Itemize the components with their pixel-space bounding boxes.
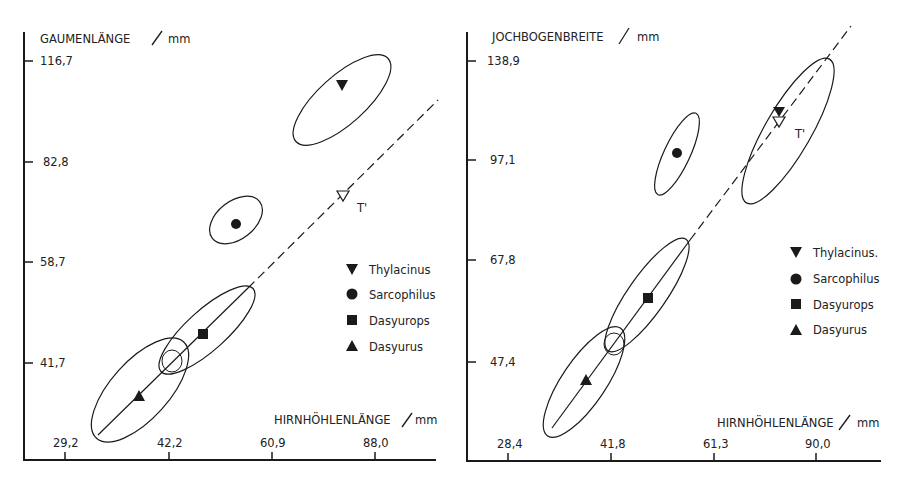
slash-divider (839, 415, 850, 430)
slash-divider (402, 413, 412, 427)
left-chart: 116,7 82,8 58,7 41,7 29,2 42,2 60,9 88,0… (23, 31, 438, 460)
right-x-axis-title: HIRNHÖHLENLÄNGE (717, 414, 834, 430)
tprime-marker (337, 191, 349, 201)
right-y-tick-label: 138,9 (487, 54, 520, 68)
left-x-axis-title: HIRNHÖHLENLÄNGE (274, 411, 391, 427)
overlap-ellipse (162, 350, 182, 372)
left-x-ticks (65, 452, 375, 460)
left-legend: Thylacinus Sarcophilus Dasyurops Dasyuru… (346, 263, 435, 354)
legend-label: Sarcophilus (813, 272, 879, 286)
thylacinus-marker (336, 80, 348, 91)
left-x-tick-label: 29,2 (53, 436, 79, 450)
left-y-ticks (24, 61, 33, 363)
legend-down-triangle-icon (346, 264, 358, 275)
left-y-tick-label: 116,7 (40, 54, 73, 68)
regression-line-solid (98, 288, 248, 435)
right-y-tick-label: 67,8 (490, 253, 516, 267)
legend-label: Dasyurus (813, 323, 867, 337)
legend-square-icon (347, 315, 357, 325)
left-y-tick-label: 58,7 (40, 255, 66, 269)
dasyurops-marker (198, 329, 208, 339)
dasyurus-ellipse (75, 322, 205, 457)
legend-label: Thylacinus. (812, 246, 878, 260)
thylacinus-ellipse (727, 48, 850, 215)
legend-label: Thylacinus (368, 263, 430, 277)
left-y-tick-label: 82,8 (43, 155, 69, 169)
left-y-axis-unit: mm (168, 32, 190, 46)
legend-label: Dasyurus (369, 340, 423, 354)
left-y-tick-label: 41,7 (40, 356, 66, 370)
sarcophilus-marker (231, 219, 241, 229)
slash-divider (619, 28, 629, 44)
tprime-marker (773, 117, 785, 127)
right-y-axis-title: JOCHBOGENBREITE (491, 30, 603, 44)
left-y-axis-title: GAUMENLÄNGE (40, 31, 130, 46)
right-y-ticks (467, 61, 476, 362)
right-x-axis-unit: mm (857, 416, 879, 430)
legend-up-triangle-icon (790, 324, 802, 335)
right-legend: Thylacinus. Sarcophilus Dasyurops Dasyur… (790, 246, 879, 337)
left-x-tick-label: 42,2 (157, 436, 183, 450)
right-chart: 138,9 97,1 67,8 47,4 28,4 41,8 61,3 90,0… (466, 26, 881, 461)
legend-down-triangle-icon (790, 247, 802, 258)
thylacinus-ellipse (280, 41, 404, 160)
left-x-tick-label: 60,9 (260, 436, 286, 450)
right-x-tick-label: 61,3 (703, 437, 729, 451)
legend-label: Sarcophilus (369, 288, 435, 302)
right-x-ticks (508, 453, 816, 461)
legend-square-icon (791, 299, 801, 309)
regression-line-solid (552, 240, 690, 428)
right-y-tick-label: 47,4 (490, 355, 516, 369)
left-x-axis-unit: mm (415, 413, 437, 427)
dasyurops-marker (643, 293, 653, 303)
slash-divider (152, 31, 162, 45)
right-x-tick-label: 28,4 (497, 437, 523, 451)
legend-circle-icon (347, 289, 358, 300)
sarcophilus-marker (672, 148, 682, 158)
legend-label: Dasyurops (369, 314, 430, 328)
tprime-label: T' (794, 127, 805, 141)
tprime-label: T' (356, 201, 367, 215)
right-y-tick-label: 97,1 (490, 153, 516, 167)
legend-label: Dasyurops (813, 298, 874, 312)
legend-up-triangle-icon (346, 340, 358, 351)
right-y-axis-unit: mm (637, 30, 659, 44)
dasyurus-marker (133, 390, 145, 401)
legend-circle-icon (791, 274, 802, 285)
right-x-tick-label: 41,8 (600, 437, 626, 451)
figure: 116,7 82,8 58,7 41,7 29,2 42,2 60,9 88,0… (0, 0, 902, 481)
right-x-tick-label: 90,0 (805, 437, 831, 451)
left-x-tick-label: 88,0 (363, 436, 389, 450)
